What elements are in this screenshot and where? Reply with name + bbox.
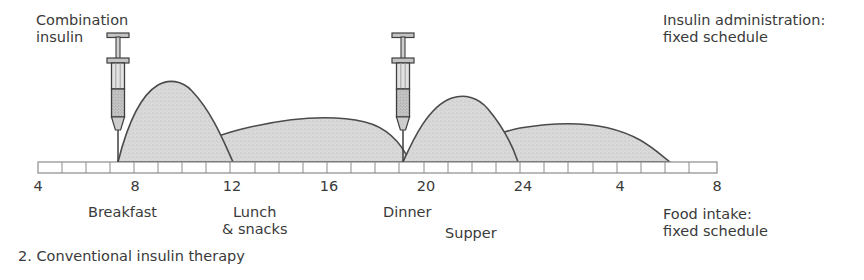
meal-label-supper: Supper xyxy=(445,225,497,242)
curve-short-acting-morning xyxy=(118,81,233,162)
axis-tick-labels: 4 8 12 16 20 24 4 8 xyxy=(33,178,721,194)
axis-tick-label: 12 xyxy=(223,178,241,194)
food-intake-label: Food intake:fixed schedule xyxy=(663,206,768,241)
figure-caption: 2. Conventional insulin therapy xyxy=(18,248,245,265)
insulin-administration-label: Insulin administration:fixed schedule xyxy=(663,12,825,47)
axis-tick-label: 24 xyxy=(514,178,532,194)
curve-short-acting-evening xyxy=(403,96,518,162)
axis-tick-label: 8 xyxy=(712,178,721,194)
meal-label-breakfast: Breakfast xyxy=(88,204,157,221)
combination-insulin-label: Combinationinsulin xyxy=(36,12,128,47)
meal-label-lunch: Lunch& snacks xyxy=(222,204,287,239)
axis-tick-label: 16 xyxy=(320,178,338,194)
time-axis xyxy=(38,162,717,173)
axis-tick-label: 20 xyxy=(417,178,435,194)
conventional-insulin-therapy-figure: 4 8 12 16 20 24 4 8 Combinationinsulin I… xyxy=(0,0,864,280)
axis-tick-label: 4 xyxy=(615,178,624,194)
axis-tick-label: 8 xyxy=(130,178,139,194)
meal-label-dinner: Dinner xyxy=(383,204,431,221)
axis-tick-label: 4 xyxy=(33,178,42,194)
